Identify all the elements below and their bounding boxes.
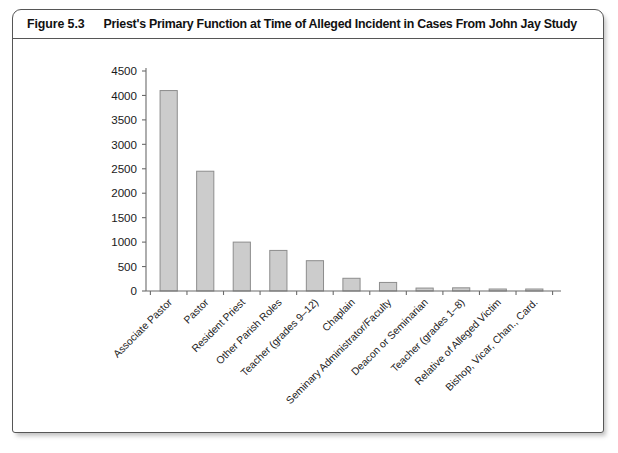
x-axis	[146, 291, 561, 295]
bar	[197, 171, 214, 291]
x-tick-labels: Associate PastorPastorResident PriestOth…	[111, 296, 540, 406]
x-tick-label: Pastor	[182, 296, 211, 325]
x-tick-label-group: Teacher (grades 9–12)	[239, 297, 321, 379]
figure-number-label: Figure 5.3	[27, 17, 85, 31]
y-tick-label: 0	[131, 284, 137, 297]
x-tick-label: Other Parish Roles	[214, 297, 284, 367]
bar	[270, 250, 287, 291]
bar	[306, 261, 323, 291]
y-tick-label: 2500	[111, 162, 137, 175]
figure-container: Figure 5.3 Priest's Primary Function at …	[12, 9, 604, 433]
y-tick-label: 3500	[111, 113, 137, 126]
y-tick-label: 1000	[111, 235, 137, 248]
bar	[379, 282, 396, 291]
y-tick-label: 1500	[111, 211, 137, 224]
y-axis: 050010001500200025003000350040004500	[111, 64, 146, 297]
chart-plot-area: 050010001500200025003000350040004500 Ass…	[13, 39, 603, 432]
x-tick-label-group: Associate Pastor	[111, 296, 174, 359]
bar	[343, 278, 360, 291]
x-tick-label-group: Teacher (grades 1–8)	[389, 297, 467, 375]
bar	[160, 91, 177, 291]
y-tick-label: 3000	[111, 138, 137, 151]
x-tick-label: Teacher (grades 1–8)	[389, 297, 467, 375]
bar-chart-svg: 050010001500200025003000350040004500 Ass…	[13, 39, 603, 432]
x-tick-label: Chaplain	[320, 296, 357, 333]
x-tick-label-group: Chaplain	[320, 296, 357, 333]
figure-title-bar: Figure 5.3 Priest's Primary Function at …	[13, 10, 603, 39]
bar-series	[160, 91, 543, 291]
y-tick-label: 4000	[111, 89, 137, 102]
y-tick-label: 2000	[111, 186, 137, 199]
y-tick-label: 4500	[111, 64, 137, 77]
x-tick-label-group: Pastor	[182, 296, 211, 325]
x-tick-label-group: Other Parish Roles	[214, 297, 284, 367]
x-tick-label: Associate Pastor	[111, 296, 174, 359]
y-tick-label: 500	[118, 260, 137, 273]
bar	[233, 242, 250, 291]
figure-title-text: Priest's Primary Function at Time of All…	[104, 17, 577, 31]
x-tick-label: Teacher (grades 9–12)	[239, 297, 321, 379]
